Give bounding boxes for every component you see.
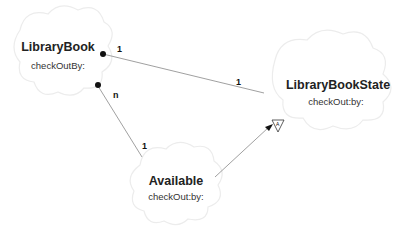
available-method: checkOut:by: [148,191,203,202]
multiplicity-label: 1 [117,44,122,54]
library-book-title: LibraryBook [21,40,95,54]
available-title: Available [149,174,203,188]
inheritance-line [215,127,269,177]
library-book-method: checkOutBy: [31,60,85,71]
association-line-book-state [103,54,264,93]
diagram-canvas: A [0,0,403,238]
multiplicity-label: 1 [142,141,147,151]
library-book-state-title: LibraryBookState [286,78,390,92]
multiplicity-label: 1 [236,77,241,87]
multiplicity-label: n [113,90,119,100]
aggregation-dot-icon [95,82,101,88]
association-line-book-available [98,86,142,157]
aggregation-dot-icon [100,51,106,57]
library-book-state-method: checkOut:by: [308,96,363,107]
